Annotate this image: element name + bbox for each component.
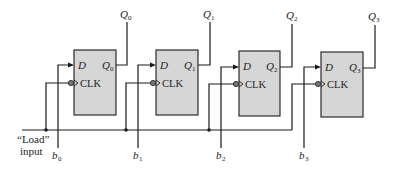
arrow-icon [68,63,74,68]
svg-text:CLK: CLK [80,78,101,89]
load-input-label: “Load” [17,133,49,145]
arrow-icon [150,63,156,68]
svg-text:D: D [324,61,333,73]
load-input-label-2: input [20,145,43,157]
svg-text:1: 1 [192,65,196,73]
svg-text:CLK: CLK [162,78,183,89]
arrow-icon [315,65,321,70]
svg-text:0: 0 [58,155,62,163]
svg-text:Q: Q [102,59,110,71]
svg-text:Q: Q [368,10,376,22]
inversion-bubble-icon [68,80,73,85]
svg-text:2: 2 [294,15,298,23]
svg-text:0: 0 [128,14,132,22]
svg-text:D: D [159,59,168,71]
svg-text:2: 2 [222,155,226,163]
svg-text:Q: Q [266,60,274,72]
svg-text:Q: Q [120,8,128,20]
inversion-bubble-icon [315,81,320,86]
svg-text:Q: Q [184,59,192,71]
flipflop-0: D CLK Q 0 Q 0 b 0 [52,8,132,163]
svg-text:0: 0 [110,65,114,73]
svg-text:Q: Q [203,8,211,20]
svg-text:D: D [242,60,251,72]
svg-text:3: 3 [357,67,361,75]
flipflop-1: D CLK Q 1 Q 1 b 1 [133,8,215,163]
arrow-icon [233,65,239,70]
register-diagram: “Load” input D CLK Q 0 Q 0 b 0 D CLK Q 1… [0,0,397,171]
svg-text:1: 1 [139,155,143,163]
flipflop-3: D CLK Q 3 Q 3 b 3 [299,10,380,163]
svg-text:3: 3 [305,155,309,163]
svg-text:1: 1 [211,14,215,22]
inversion-bubble-icon [150,80,155,85]
svg-text:Q: Q [349,61,357,73]
flipflop-2: D CLK Q 2 Q 2 b 2 [216,9,298,163]
svg-text:3: 3 [376,16,380,24]
svg-text:CLK: CLK [327,79,348,90]
svg-text:D: D [77,59,86,71]
inversion-bubble-icon [233,81,238,86]
svg-text:CLK: CLK [245,79,266,90]
svg-text:Q: Q [286,9,294,21]
svg-text:2: 2 [274,66,278,74]
